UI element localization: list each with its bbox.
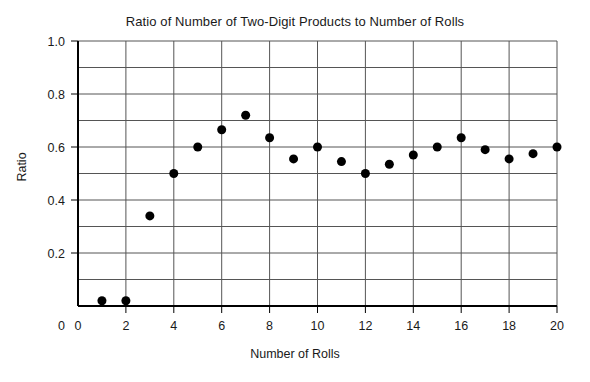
x-tick-label: 4 bbox=[170, 319, 177, 333]
data-point bbox=[553, 143, 562, 152]
y-tick-labels: 00.20.40.60.81.0 bbox=[48, 35, 65, 334]
x-tick-label: 10 bbox=[311, 319, 325, 333]
y-tick-label: 1.0 bbox=[48, 35, 65, 49]
data-point bbox=[241, 111, 250, 120]
data-point bbox=[361, 169, 370, 178]
data-point bbox=[193, 143, 202, 152]
data-point bbox=[433, 143, 442, 152]
chart-container: Ratio of Number of Two-Digit Products to… bbox=[0, 0, 590, 382]
data-point bbox=[217, 125, 226, 134]
data-points bbox=[97, 111, 561, 306]
x-tick-label: 16 bbox=[454, 319, 468, 333]
x-tick-label: 18 bbox=[502, 319, 516, 333]
data-point bbox=[97, 296, 106, 305]
x-tick-label: 6 bbox=[218, 319, 225, 333]
x-tick-label: 20 bbox=[550, 319, 564, 333]
data-point bbox=[337, 157, 346, 166]
y-tick-label: 0.4 bbox=[48, 194, 65, 208]
x-tick-label: 2 bbox=[122, 319, 129, 333]
y-tick-label: 0 bbox=[58, 319, 65, 333]
data-point bbox=[313, 143, 322, 152]
y-tick-label: 0.8 bbox=[48, 88, 65, 102]
data-point bbox=[169, 169, 178, 178]
x-tick-label: 14 bbox=[406, 319, 420, 333]
data-point bbox=[289, 154, 298, 163]
axis-ticks bbox=[71, 41, 557, 313]
data-point bbox=[505, 154, 514, 163]
data-point bbox=[385, 160, 394, 169]
x-tick-labels: 02468101214161820 bbox=[75, 319, 564, 333]
x-tick-label: 12 bbox=[358, 319, 372, 333]
data-point bbox=[529, 149, 538, 158]
x-tick-label: 0 bbox=[75, 319, 82, 333]
y-tick-label: 0.6 bbox=[48, 141, 65, 155]
data-point bbox=[457, 133, 466, 142]
data-point bbox=[265, 133, 274, 142]
plot-area: 02468101214161820 00.20.40.60.81.0 bbox=[0, 0, 590, 382]
x-tick-label: 8 bbox=[266, 319, 273, 333]
y-tick-label: 0.2 bbox=[48, 247, 65, 261]
data-point bbox=[145, 211, 154, 220]
data-point bbox=[409, 150, 418, 159]
data-point bbox=[121, 296, 130, 305]
data-point bbox=[481, 145, 490, 154]
